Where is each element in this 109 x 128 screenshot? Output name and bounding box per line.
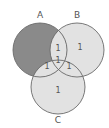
value-a-and-b: 1 — [55, 44, 60, 53]
value-b-only: 1 — [77, 43, 82, 52]
value-b-and-c: 1 — [66, 62, 71, 71]
value-a-and-b-and-c: 1 — [55, 56, 60, 65]
value-a-and-c: 1 — [44, 62, 49, 71]
value-c-only: 1 — [55, 86, 60, 95]
label-c: C — [55, 115, 61, 125]
label-a: A — [37, 10, 44, 20]
venn-diagram: A B C 1 1 1 1 1 1 — [0, 0, 109, 128]
label-b: B — [74, 10, 80, 20]
